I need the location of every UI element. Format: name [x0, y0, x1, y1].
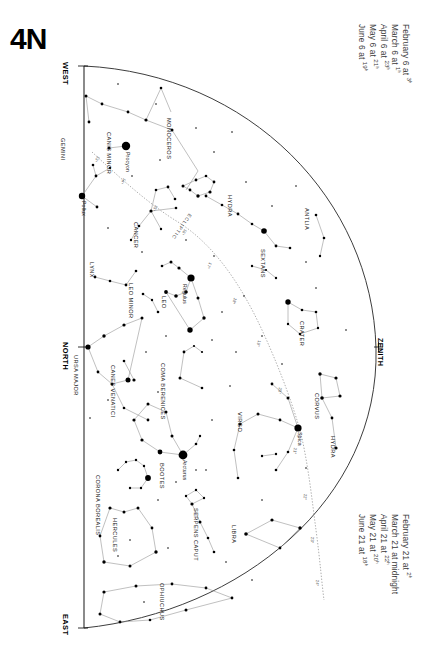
date-bottom-line-1: February 21 at 2ʰ [401, 514, 413, 578]
date-bottom-line-3: April 21 at 22ʰ [379, 514, 391, 565]
constellation-label-lynx: LYNX [89, 262, 95, 278]
star-label-regulus: Regulus [182, 284, 188, 304]
ecliptic-tick-23: 23° [310, 537, 315, 544]
ecliptic-tick-21: 21° [292, 447, 298, 454]
date-top-line-5: June 6 at 19ʰ [357, 24, 369, 71]
constellation-label-corvus: CORVUS [314, 393, 320, 420]
date-top-line-1: February 6 at 3ʰ [401, 24, 413, 84]
constellation-label-crater: CRATER [299, 321, 305, 346]
date-bottom-line-5: June 21 at 18ʰ [357, 514, 369, 566]
constellation-label-hydra-lower: HYDRA [330, 436, 336, 458]
horizon-dome-arc [84, 66, 376, 628]
sky-map [0, 0, 423, 670]
constellation-label-monoceros: MONOCEROS [166, 118, 172, 159]
constellation-label-gemini: GEMINI [60, 138, 66, 161]
date-top-line-3: April 6 at 23ʰ [379, 24, 391, 70]
star-chart: 4N WEST NORTH EAST ZENITH [0, 0, 423, 670]
bright-stars [79, 142, 302, 481]
constellation-label-leo: LEO [161, 296, 167, 309]
constellation-label-hydra-upper: HYDRA [227, 195, 233, 217]
constellation-label-hercules: HERCULES [112, 518, 118, 552]
constellation-label-sextans: SEXTANS [260, 249, 266, 278]
constellation-label-cancer: CANCER [133, 222, 139, 248]
constellation-lines [82, 88, 340, 622]
ecliptic-tick-22: 22° [303, 494, 308, 501]
constellation-label-coma-berenices: COMA BERENICES [160, 363, 166, 420]
constellation-label-ursa-major: URSA MAJOR [73, 355, 79, 396]
constellation-label-serpens-caput: SERPENS CAPUT [193, 508, 199, 548]
constellation-label-bootes: BOOTES [159, 463, 165, 489]
constellation-label-libra: LIBRA [231, 525, 237, 543]
constellation-label-leo-minor: LEO MINOR [128, 283, 134, 318]
constellation-label-virgo: VIRGO [237, 412, 243, 432]
star-label-pollux: Pollux [81, 201, 87, 216]
star-label-arcturus: Arcturus [182, 460, 188, 481]
constellation-label-canes-venatici: CANES VENATICI [110, 365, 116, 418]
date-bottom-line-2: March 21 at midnight [390, 514, 402, 594]
date-bottom-line-4: May 21 at 20ʰ [368, 514, 380, 564]
constellation-label-antlia: ANTLIA [304, 208, 310, 230]
star-label-spica: Spica [297, 432, 303, 446]
zenith-marker [374, 342, 383, 352]
constellation-label-canis-minor: CANIS MINOR [106, 132, 112, 174]
date-top-line-4: May 6 at 21ʰ [368, 24, 380, 69]
date-top-line-2: March 6 at 1ʰ [390, 24, 402, 73]
ecliptic-path [92, 152, 324, 600]
ecliptic-tick-24: 24° [315, 580, 320, 587]
constellation-label-ophiuchus: OPHIUCHUS [159, 583, 165, 621]
constellation-label-corona-borealis: CORONA BOREALIS [95, 475, 101, 515]
star-label-procyon: Procyon [125, 152, 131, 172]
